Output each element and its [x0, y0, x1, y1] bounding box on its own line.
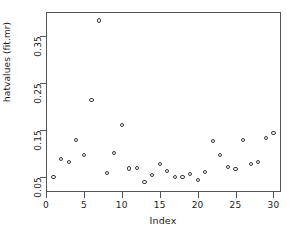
data-point [127, 166, 131, 170]
x-axis-title: Index [149, 215, 176, 226]
data-point [135, 166, 139, 170]
x-axis-tick [122, 192, 123, 198]
data-point [180, 175, 184, 179]
x-axis-tick-label: 5 [81, 200, 87, 210]
data-point [165, 169, 169, 173]
y-axis-title: hatvalues (fit.mr) [2, 22, 12, 102]
data-point [196, 178, 200, 182]
x-axis-tick [160, 192, 161, 198]
data-point [203, 170, 207, 174]
y-axis-tick-label: 0.25 [33, 83, 43, 104]
data-point [173, 175, 177, 179]
data-point [150, 173, 154, 177]
data-point [218, 153, 222, 157]
data-point [158, 162, 162, 166]
y-axis-tick-label: 0.05 [33, 177, 43, 198]
data-point [142, 180, 146, 184]
data-point [249, 162, 253, 166]
x-axis-tick-label: 25 [230, 200, 242, 210]
x-axis-tick [198, 192, 199, 198]
x-axis-tick-label: 15 [154, 200, 166, 210]
data-point [241, 138, 245, 142]
data-points-layer [46, 12, 281, 192]
x-axis-tick-label: 0 [43, 200, 49, 210]
data-point [226, 165, 230, 169]
data-point [211, 139, 215, 143]
data-point [74, 138, 78, 142]
data-point [256, 160, 260, 164]
data-point [120, 123, 124, 127]
y-axis-tick-label: 0.15 [33, 130, 43, 151]
x-axis-tick-label: 30 [267, 200, 279, 210]
x-axis-tick-label: 10 [116, 200, 128, 210]
x-axis-tick [46, 192, 47, 198]
data-point [67, 160, 71, 164]
data-point [59, 157, 63, 161]
y-axis-tick-label: 0.35 [33, 36, 43, 57]
data-point [188, 172, 192, 176]
data-point [105, 171, 109, 175]
data-point [112, 151, 116, 155]
x-axis-tick [236, 192, 237, 198]
data-point [271, 131, 275, 135]
data-point [233, 167, 237, 171]
data-point [264, 136, 268, 140]
data-point [51, 175, 55, 179]
data-point [82, 153, 86, 157]
x-axis-tick [273, 192, 274, 198]
data-point [97, 18, 101, 22]
x-axis-tick-label: 20 [192, 200, 204, 210]
scatter-plot-figure: 0.050.150.250.35051015202530 hatvalues (… [0, 0, 289, 235]
data-point [89, 98, 93, 102]
x-axis-tick [84, 192, 85, 198]
